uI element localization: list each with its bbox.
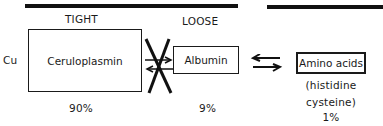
copper-label: Cu (3, 54, 17, 66)
albumin-label: Albumin (184, 54, 227, 66)
tight-header: TIGHT (65, 13, 98, 25)
blocked-exchange-icon (143, 36, 175, 96)
reversible-arrows-icon (250, 54, 284, 72)
amino-acids-box: Amino acids (296, 52, 366, 74)
amino-acids-sublabel-1: (histidine (301, 79, 361, 91)
ceruloplasmin-percent: 90% (69, 102, 93, 114)
amino-acids-label: Amino acids (299, 57, 363, 69)
ceruloplasmin-label: Ceruloplasmin (47, 55, 122, 67)
amino-acids-percent: 1% (301, 111, 361, 123)
amino-acids-sublabel-2: cysteine) (301, 96, 361, 108)
ceruloplasmin-box: Ceruloplasmin (28, 29, 142, 92)
albumin-box: Albumin (173, 46, 239, 74)
tight-loose-rule (25, 4, 238, 8)
free-rule (267, 5, 383, 9)
albumin-percent: 9% (199, 102, 216, 114)
loose-header: LOOSE (182, 15, 218, 27)
